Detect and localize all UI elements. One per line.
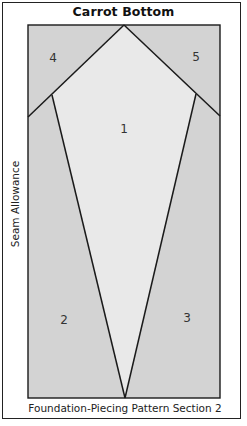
piece-label-5: 5 (192, 50, 200, 64)
piece-label-3: 3 (183, 311, 191, 325)
piece-label-4: 4 (49, 51, 57, 65)
piece-label-2: 2 (60, 313, 68, 327)
seam-allowance-label: Seam Allowance (9, 161, 21, 247)
pattern-caption: Foundation-Piecing Pattern Section 2 (0, 402, 247, 414)
piece-label-1: 1 (120, 122, 128, 136)
foundation-pattern-diagram: 1 2 3 4 5 (0, 0, 247, 426)
